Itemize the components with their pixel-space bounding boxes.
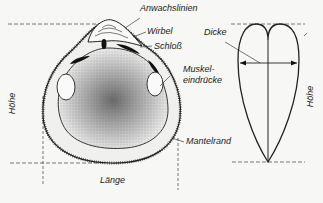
label-schloss: Schloß [154, 42, 182, 51]
label-muskel-line1: Muskel- [183, 65, 215, 74]
label-hoehe-left: Höhe [8, 93, 17, 115]
label-anwachslinien: Anwachslinien [140, 4, 198, 13]
label-wirbel: Wirbel [147, 27, 172, 36]
label-laenge: Länge [100, 176, 125, 185]
label-mantelrand: Mantelrand [186, 137, 231, 146]
label-hoehe-right: Höhe [306, 86, 315, 108]
label-muskel-line2: eindrücke [183, 76, 222, 85]
label-dicke: Dicke [204, 28, 227, 37]
side-view-cross-section [225, 24, 307, 162]
